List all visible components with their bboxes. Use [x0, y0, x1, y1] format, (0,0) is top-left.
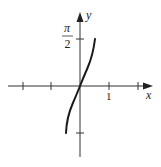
arcsin-graph: y x 1 π 2: [0, 0, 161, 167]
y-axis-arrow-icon: [77, 12, 84, 22]
x-axis-label: x: [145, 88, 152, 102]
two-label: 2: [65, 37, 71, 51]
pi-label: π: [64, 21, 71, 35]
x-tick-label-1: 1: [106, 90, 112, 102]
y-axis-label: y: [85, 8, 92, 22]
